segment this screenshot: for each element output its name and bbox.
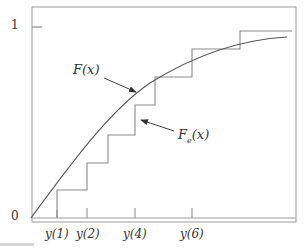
x-label-y4: y(4) [123, 227, 147, 241]
true-cdf-curve [31, 37, 287, 218]
x-label-y2: y(2) [76, 227, 100, 241]
F-symbol: F [73, 62, 82, 77]
scan-artifact [0, 243, 34, 246]
F-argument: (x) [82, 62, 99, 77]
Fe-annotation: Fe(x) [178, 127, 209, 145]
y-label-1: 1 [11, 18, 19, 32]
empirical-cdf-steps [57, 31, 292, 218]
x-label-y6: y(6) [180, 227, 204, 241]
x-label-y1-text: y(1) [45, 227, 69, 241]
y-label-0: 0 [11, 209, 19, 223]
x-label-y4-text: y(4) [123, 227, 147, 241]
x-label-y2-text: y(2) [76, 227, 100, 241]
x-label-y1: y(1) [45, 227, 69, 241]
F-arrow [104, 78, 136, 92]
Fe-arrow [141, 120, 174, 131]
x-label-y6-text: y(6) [180, 227, 204, 241]
Fe-symbol: F [178, 127, 187, 142]
cdf-plot [0, 0, 307, 250]
F-annotation: F(x) [73, 62, 100, 77]
Fe-argument: (x) [192, 127, 209, 142]
